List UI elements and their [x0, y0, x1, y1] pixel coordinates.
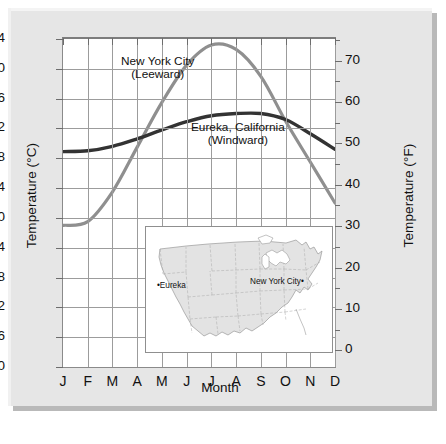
y-axis-minor-tick-fahrenheit: [335, 205, 340, 206]
florida-shape: [296, 309, 306, 335]
eureka-series-label: Eureka, California (Windward): [191, 121, 285, 148]
y-axis-tick-label-celsius: 8: [0, 149, 5, 164]
y-axis-tick-label-celsius: 20: [0, 60, 5, 75]
y-axis-tick-label-celsius: −16: [0, 328, 5, 343]
y-axis-tick-mark-fahrenheit: [335, 309, 342, 310]
y-axis-tick-mark-fahrenheit: [335, 143, 342, 144]
x-axis-tick-mark: [211, 38, 212, 45]
y-axis-tick-mark-celsius: [56, 158, 63, 159]
x-axis-tick-mark: [187, 38, 188, 45]
y-axis-minor-tick-fahrenheit: [335, 123, 340, 124]
x-axis-tick-mark: [63, 38, 64, 45]
gridline-horizontal: [63, 218, 335, 219]
y-axis-minor-tick-fahrenheit: [335, 288, 340, 289]
x-axis-title: Month: [8, 380, 432, 395]
y-axis-tick-mark-celsius: [56, 69, 63, 70]
x-axis-tick-mark: [236, 38, 237, 45]
y-axis-tick-label-celsius: −8: [0, 269, 5, 284]
x-axis-tick-mark: [137, 38, 138, 45]
x-axis-tick-mark: [335, 38, 336, 45]
nyc-series-label-line1: New York City: [121, 55, 194, 68]
y-axis-minor-tick-fahrenheit: [335, 164, 340, 165]
y-axis-tick-label-celsius: −20: [0, 358, 5, 373]
y-axis-tick-mark-fahrenheit: [335, 226, 342, 227]
gridline-vertical: [335, 39, 336, 367]
y-axis-tick-label-celsius: 12: [0, 119, 5, 134]
y-axis-tick-label-fahrenheit: 0: [345, 341, 353, 356]
y-axis-tick-mark-fahrenheit: [335, 61, 342, 62]
x-axis-tick-mark: [112, 38, 113, 45]
x-axis-tick-mark: [286, 38, 287, 45]
gridline-vertical: [88, 39, 89, 367]
map-label-new-york-city: New York City•: [250, 277, 304, 286]
y-axis-tick-label-fahrenheit: 50: [345, 134, 360, 149]
y-axis-tick-label-celsius: 4: [0, 179, 5, 194]
y-axis-tick-mark-celsius: [56, 248, 63, 249]
inset-map: •Eureka New York City•: [145, 226, 333, 353]
y-axis-minor-tick-fahrenheit: [335, 330, 340, 331]
y-axis-tick-mark-fahrenheit: [335, 350, 342, 351]
eureka-series-label-line2: (Windward): [191, 134, 285, 147]
x-axis-tick-mark: [88, 38, 89, 45]
y-axis-tick-mark-celsius: [56, 218, 63, 219]
gridline-horizontal: [63, 158, 335, 159]
figure-panel: Temperature (°C) Temperature (°F) 242016…: [8, 8, 432, 406]
y-axis-tick-mark-fahrenheit: [335, 102, 342, 103]
y-axis-minor-tick-fahrenheit: [335, 81, 340, 82]
y-axis-tick-mark-celsius: [56, 307, 63, 308]
y-axis-tick-mark-celsius: [56, 128, 63, 129]
y-axis-tick-label-celsius: 16: [0, 90, 5, 105]
x-axis-tick-mark: [310, 38, 311, 45]
plot-area: 24201612840−4−8−12−16−20 706050403020100…: [62, 37, 336, 368]
gridline-horizontal: [63, 69, 335, 70]
gridline-vertical: [137, 39, 138, 367]
y-axis-tick-mark-celsius: [56, 188, 63, 189]
x-axis-tick-mark: [261, 38, 262, 45]
y-axis-title-celsius: Temperature (°C): [24, 126, 39, 266]
y-axis-tick-label-fahrenheit: 70: [345, 52, 360, 67]
nyc-series-label-line2: (Leeward): [121, 68, 194, 81]
y-axis-minor-tick-fahrenheit: [335, 247, 340, 248]
y-axis-tick-mark-celsius: [56, 278, 63, 279]
gridline-vertical: [112, 39, 113, 367]
x-axis-tick-mark: [162, 38, 163, 45]
gridline-horizontal: [63, 188, 335, 189]
y-axis-tick-label-celsius: 0: [0, 209, 5, 224]
y-axis-title-fahrenheit: Temperature (°F): [401, 126, 416, 266]
y-axis-tick-mark-celsius: [56, 337, 63, 338]
y-axis-tick-label-celsius: −12: [0, 298, 5, 313]
y-axis-tick-label-fahrenheit: 10: [345, 300, 360, 315]
y-axis-tick-label-celsius: −4: [0, 239, 5, 254]
y-axis-tick-label-fahrenheit: 60: [345, 93, 360, 108]
nyc-series-label: New York City (Leeward): [121, 55, 194, 82]
y-axis-tick-label-fahrenheit: 30: [345, 217, 360, 232]
y-axis-tick-mark-fahrenheit: [335, 268, 342, 269]
y-axis-tick-label-fahrenheit: 20: [345, 259, 360, 274]
map-label-eureka: •Eureka: [157, 281, 186, 290]
y-axis-tick-mark-celsius: [56, 39, 63, 40]
gridline-horizontal: [63, 99, 335, 100]
y-axis-tick-mark-celsius: [56, 367, 63, 368]
y-axis-tick-mark-fahrenheit: [335, 185, 342, 186]
y-axis-tick-label-fahrenheit: 40: [345, 176, 360, 191]
y-axis-tick-mark-celsius: [56, 99, 63, 100]
eureka-series-label-line1: Eureka, California: [191, 121, 285, 134]
y-axis-tick-label-celsius: 24: [0, 30, 5, 45]
